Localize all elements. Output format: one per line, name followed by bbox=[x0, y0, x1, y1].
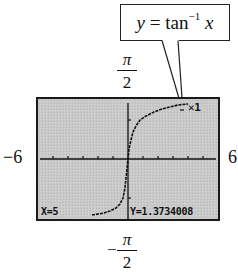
fraction-bar bbox=[117, 250, 137, 251]
ymin-sign: − bbox=[107, 240, 117, 260]
ymax-numerator: π bbox=[117, 51, 137, 68]
trace-cursor-icon: ✕1 bbox=[188, 101, 201, 114]
y-readout: Y=1.3734008 bbox=[130, 206, 193, 217]
fraction-bar bbox=[117, 70, 137, 71]
calculator-screen: ✕1 X=5 Y=1.3734008 bbox=[36, 97, 220, 221]
ymax-label: π 2 bbox=[117, 51, 137, 91]
ymin-numerator: π bbox=[117, 231, 137, 248]
graph-plot bbox=[38, 99, 218, 219]
ymax-denominator: 2 bbox=[117, 74, 137, 91]
x-readout: X=5 bbox=[41, 206, 58, 217]
xmin-label: −6 bbox=[3, 147, 22, 168]
cursor-index: 1 bbox=[194, 101, 200, 114]
xmax-label: 6 bbox=[228, 147, 237, 168]
ymin-denominator: 2 bbox=[117, 254, 137, 271]
ymin-label: π 2 bbox=[117, 231, 137, 271]
